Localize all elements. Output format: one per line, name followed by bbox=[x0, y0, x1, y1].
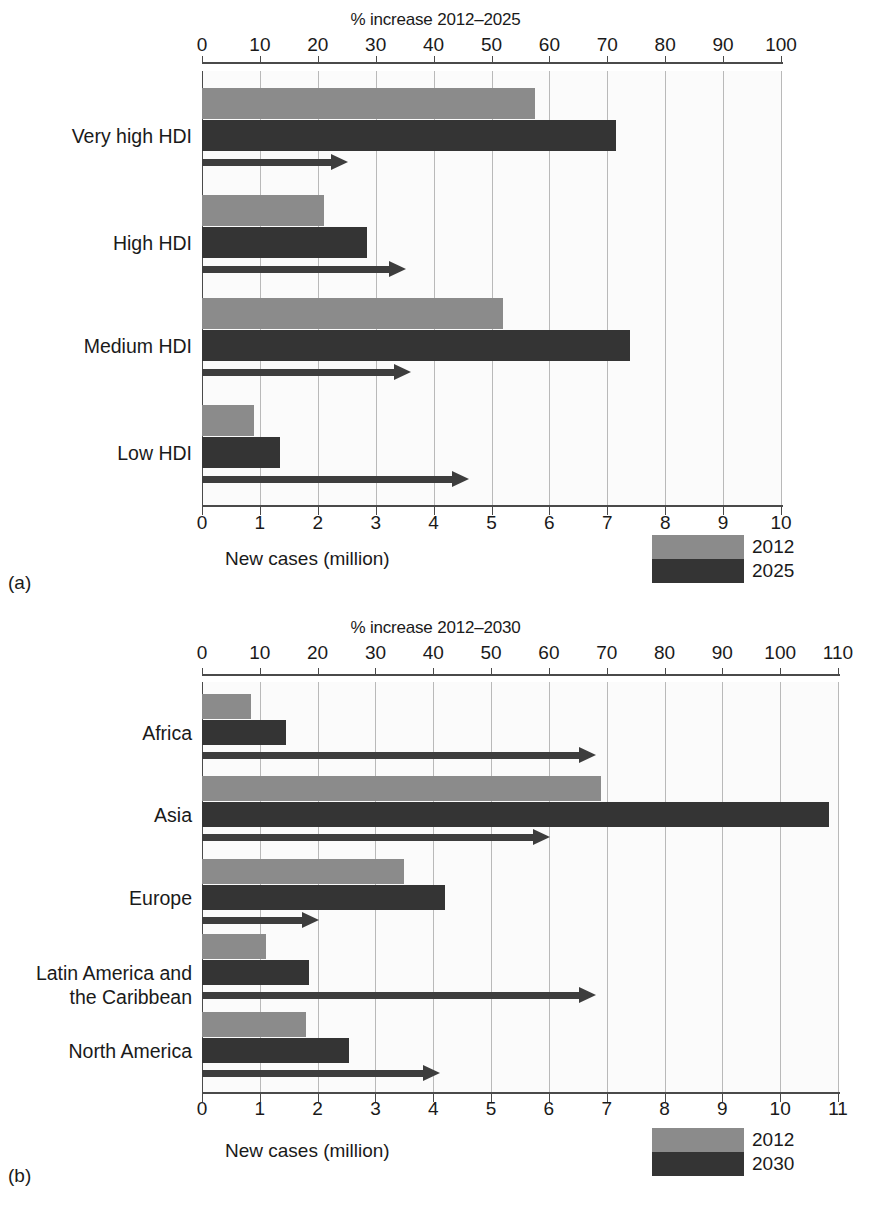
percent-increase-arrow bbox=[202, 1068, 439, 1079]
legend-swatch-2012 bbox=[652, 1128, 744, 1152]
percent-increase-arrow bbox=[202, 832, 549, 843]
bottom-tick-label: 2 bbox=[313, 512, 324, 534]
top-tick-label: 30 bbox=[365, 34, 386, 56]
bottom-tick-label: 1 bbox=[255, 1098, 266, 1120]
panel-a-top-axis-line bbox=[202, 62, 783, 64]
panel-a-bottom-axis-line bbox=[202, 505, 783, 507]
bar-series-projected bbox=[202, 960, 309, 985]
bottom-tick-label: 6 bbox=[544, 512, 555, 534]
top-tick-label: 80 bbox=[655, 34, 676, 56]
arrow-head bbox=[389, 261, 406, 277]
category-label: Low HDI bbox=[0, 441, 192, 465]
bar-series-projected bbox=[202, 720, 286, 745]
panel-b-legend: 2012 2030 bbox=[652, 1128, 852, 1178]
top-tick-label: 10 bbox=[249, 34, 270, 56]
top-tick-label: 100 bbox=[764, 642, 796, 664]
legend-swatch-2030 bbox=[652, 1152, 744, 1176]
bar-series-projected bbox=[202, 437, 280, 468]
tickmark bbox=[318, 56, 319, 63]
arrow-head bbox=[533, 829, 550, 845]
bar-series-2012 bbox=[202, 934, 266, 959]
bottom-tick-label: 8 bbox=[659, 1098, 670, 1120]
legend-label-second: 2025 bbox=[752, 559, 794, 583]
bar-series-projected bbox=[202, 120, 616, 151]
arrow-shaft bbox=[202, 476, 453, 483]
bottom-tick-label: 4 bbox=[428, 1098, 439, 1120]
percent-increase-arrow bbox=[202, 915, 318, 926]
tickmark bbox=[549, 56, 550, 63]
bottom-tick-label: 1 bbox=[255, 512, 266, 534]
legend-label-first: 2012 bbox=[752, 1128, 794, 1152]
arrow-shaft bbox=[202, 992, 580, 999]
arrow-shaft bbox=[202, 834, 534, 841]
bar-series-2012 bbox=[202, 405, 254, 436]
bar-series-2012 bbox=[202, 195, 324, 226]
bar-series-projected bbox=[202, 802, 829, 827]
chart-panel-a: % increase 2012–2025 0102030405060708090… bbox=[0, 0, 871, 600]
gridline bbox=[723, 71, 724, 505]
tickmark bbox=[722, 668, 723, 675]
bottom-tick-label: 10 bbox=[770, 1098, 791, 1120]
tickmark bbox=[665, 56, 666, 63]
tickmark bbox=[665, 668, 666, 675]
top-tick-label: 60 bbox=[538, 642, 559, 664]
bottom-tick-label: 8 bbox=[660, 512, 671, 534]
bar-series-2012 bbox=[202, 1012, 306, 1037]
tickmark bbox=[260, 56, 261, 63]
bottom-tick-label: 7 bbox=[601, 1098, 612, 1120]
arrow-shaft bbox=[202, 159, 332, 166]
percent-increase-arrow bbox=[202, 990, 595, 1001]
top-tick-label: 90 bbox=[712, 642, 733, 664]
percent-increase-arrow bbox=[202, 750, 595, 761]
bar-series-projected bbox=[202, 227, 367, 258]
top-tick-label: 40 bbox=[423, 642, 444, 664]
tickmark bbox=[492, 56, 493, 63]
bottom-tick-label: 0 bbox=[197, 512, 208, 534]
arrow-head bbox=[452, 471, 469, 487]
bottom-tick-label: 9 bbox=[718, 512, 729, 534]
panel-b-top-tick-labels: 0102030405060708090100110 bbox=[0, 642, 871, 664]
tickmark bbox=[434, 56, 435, 63]
top-tick-label: 110 bbox=[823, 642, 853, 664]
percent-increase-arrow bbox=[202, 157, 347, 168]
legend-swatch-2025 bbox=[652, 559, 744, 583]
gridline bbox=[491, 682, 492, 1092]
top-tick-label: 70 bbox=[597, 34, 618, 56]
tickmark bbox=[375, 668, 376, 675]
bar-series-2012 bbox=[202, 859, 404, 884]
tickmark bbox=[780, 668, 781, 675]
gridline bbox=[838, 682, 839, 1092]
bar-series-projected bbox=[202, 885, 445, 910]
arrow-shaft bbox=[202, 369, 395, 376]
arrow-head bbox=[394, 364, 411, 380]
tickmark bbox=[491, 668, 492, 675]
category-label: North America bbox=[0, 1039, 192, 1063]
tickmark bbox=[260, 668, 261, 675]
bottom-tick-label: 10 bbox=[770, 512, 791, 534]
top-tick-label: 40 bbox=[423, 34, 444, 56]
panel-a-top-tick-labels: 0102030405060708090100 bbox=[0, 34, 871, 56]
panel-a-bottom-axis-caption: New cases (million) bbox=[225, 548, 390, 570]
gridline bbox=[607, 682, 608, 1092]
arrow-shaft bbox=[202, 752, 580, 759]
arrow-shaft bbox=[202, 1070, 424, 1077]
gridline bbox=[665, 71, 666, 505]
bottom-tick-label: 5 bbox=[486, 512, 497, 534]
gridline bbox=[780, 682, 781, 1092]
arrow-head bbox=[423, 1065, 440, 1081]
tickmark bbox=[202, 56, 203, 63]
percent-increase-arrow bbox=[202, 474, 468, 485]
top-tick-label: 90 bbox=[713, 34, 734, 56]
tickmark bbox=[607, 668, 608, 675]
bottom-tick-label: 11 bbox=[828, 1098, 848, 1120]
arrow-head bbox=[302, 912, 319, 928]
bottom-tick-label: 7 bbox=[602, 512, 613, 534]
category-label: Very high HDI bbox=[0, 124, 192, 148]
bottom-tick-label: 0 bbox=[197, 1098, 208, 1120]
chart-panel-b: % increase 2012–2030 0102030405060708090… bbox=[0, 600, 871, 1208]
top-tick-label: 10 bbox=[249, 642, 270, 664]
top-tick-label: 30 bbox=[365, 642, 386, 664]
tickmark bbox=[376, 56, 377, 63]
panel-b-top-axis-line bbox=[202, 674, 840, 676]
panel-a-legend: 2012 2025 bbox=[652, 535, 852, 585]
